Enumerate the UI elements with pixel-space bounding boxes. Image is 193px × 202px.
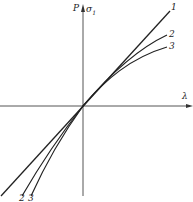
curve-1-label: 1 [171,3,177,12]
curve-2-label: 2 [169,30,175,39]
x-axis-arrow-icon [186,104,193,108]
curve-3-label: 3 [169,42,175,51]
x-axis-label: λ [182,92,188,101]
y-axis-label-p: P [73,4,79,13]
curve-3 [31,47,167,196]
curve-3-bottom-label: 3 [28,194,34,202]
curve-2-bottom-label: 2 [19,194,25,202]
y-axis-arrow-icon [81,4,85,12]
curve-2 [22,35,167,196]
diagram-canvas [0,0,193,202]
y-axis-label-sigma: σ1 [86,5,96,16]
